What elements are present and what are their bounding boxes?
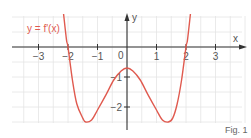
x-tick-label: −3 [33, 51, 45, 62]
function-label: y = f'(x) [27, 23, 60, 34]
x-axis-label: x [233, 33, 238, 44]
x-tick-label: 1 [154, 51, 160, 62]
x-tick-label: 3 [213, 51, 219, 62]
origin-label: 0 [118, 50, 124, 61]
x-axis-arrow-icon [239, 45, 247, 50]
figure-caption: Fig. 1 [225, 125, 248, 135]
function-graph: −3−2−1123 −1−2 x y 0 y = f'(x) Fig. 1 [0, 0, 251, 138]
y-tick-label: −2 [111, 102, 123, 113]
x-axis [12, 45, 247, 50]
y-axis [125, 13, 130, 130]
x-tick-label: −1 [92, 51, 104, 62]
y-axis-label: y [132, 12, 137, 23]
